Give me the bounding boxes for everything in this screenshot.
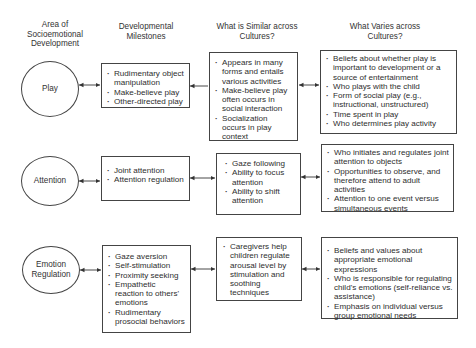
list-item: Gaze following — [225, 159, 296, 168]
list-item: Who is responsible for regulating child'… — [327, 274, 453, 302]
list-item: Opportunities to observe, and therefore … — [327, 167, 449, 195]
emotion-varies-box: Beliefs and values about appropriate emo… — [321, 237, 458, 319]
emotion-similar-box: Caregivers help children regulate arousa… — [216, 237, 302, 301]
list-item: Beliefs and values about appropriate emo… — [327, 246, 453, 274]
list-item: Emphasis on individual versus group emot… — [327, 302, 453, 321]
header-area: Area of Socioemotional Development — [22, 20, 88, 49]
list-item: Make-believe play often occurs in social… — [215, 86, 293, 114]
list-item: Caregivers help children regulate arousa… — [223, 242, 297, 298]
list-item: Attention to one event versus simultaneo… — [327, 194, 449, 213]
area-emotion-regulation-node: Emotion Regulation — [22, 246, 80, 294]
list-item: Rudimentary object manipulation — [107, 69, 185, 88]
list-item: Make-believe play — [107, 88, 185, 97]
list-item: Beliefs about whether play is important … — [326, 54, 452, 82]
list-item: Appears in many forms and entails variou… — [215, 58, 293, 86]
list-item: Empathetic reaction to others' emotions — [108, 280, 186, 308]
list-item: Who initiates and regulates joint attent… — [327, 148, 449, 167]
list-item: Form of social play (e.g., instructional… — [326, 91, 452, 110]
list-item: Self-stimulation — [108, 261, 186, 270]
list-item: Time spent in play — [326, 110, 452, 119]
attention-similar-box: Gaze following Ability to focus attentio… — [216, 153, 301, 215]
list-item: Who determines play activity — [326, 119, 452, 128]
attention-varies-box: Who initiates and regulates joint attent… — [321, 144, 454, 212]
play-similar-box: Appears in many forms and entails variou… — [209, 52, 298, 141]
list-item: Proximity seeking — [108, 271, 186, 280]
header-varies: What Varies across Cultures? — [345, 22, 425, 41]
play-varies-box: Beliefs about whether play is important … — [320, 50, 457, 134]
attention-milestones-box: Joint attention Attention regulation — [101, 156, 190, 201]
area-attention-node: Attention — [21, 156, 79, 206]
emotion-milestones-box: Gaze aversion Self-stimulation Proximity… — [102, 245, 191, 333]
header-milestones: Developmental Milestones — [108, 22, 184, 41]
play-milestones-box: Rudimentary object manipulation Make-bel… — [101, 63, 190, 108]
list-item: Socialization occurs in play context — [215, 114, 293, 142]
list-item: Joint attention — [107, 166, 185, 175]
list-item: Rudimentary prosocial behaviors — [108, 308, 186, 327]
list-item: Who plays with the child — [326, 82, 452, 91]
area-play-node: Play — [21, 61, 79, 117]
list-item: Other-directed play — [107, 97, 185, 106]
list-item: Ability to shift attention — [225, 187, 296, 206]
list-item: Attention regulation — [107, 175, 185, 184]
list-item: Ability to focus attention — [225, 168, 296, 187]
list-item: Gaze aversion — [108, 252, 186, 261]
header-similar: What is Similar across Cultures? — [214, 22, 300, 41]
